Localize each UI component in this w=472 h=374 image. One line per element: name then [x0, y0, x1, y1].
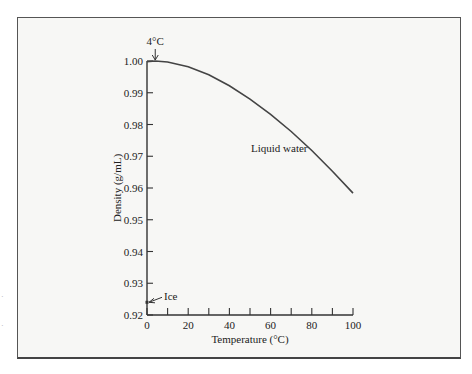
- y-axis-ticks: 0.920.930.940.950.960.970.980.991.00: [124, 55, 153, 321]
- x-axis-ticks: 020406080100: [144, 308, 362, 331]
- y-tick-label: 0.95: [124, 214, 144, 226]
- x-tick-label: 80: [306, 319, 318, 331]
- y-tick-label: 1.00: [124, 55, 144, 67]
- margin-mark: ·: [1, 321, 4, 330]
- y-tick-label: 0.97: [124, 150, 144, 162]
- annotation-4c: 4°C: [147, 35, 164, 47]
- margin-mark: ·: [1, 292, 4, 301]
- y-tick-label: 0.98: [124, 119, 144, 131]
- annotations: 4°CIceLiquid water: [146, 35, 308, 304]
- annotation-liquid-water: Liquid water: [251, 142, 308, 154]
- y-tick-label: 0.96: [124, 182, 144, 194]
- density-chart: 0.920.930.940.950.960.970.980.991.00 020…: [0, 0, 472, 374]
- y-tick-label: 0.94: [124, 246, 144, 258]
- x-tick-label: 40: [224, 319, 236, 331]
- liquid-water-curve: [147, 61, 353, 193]
- annotation-ice: Ice: [164, 290, 178, 302]
- x-tick-label: 20: [183, 319, 195, 331]
- y-tick-label: 0.93: [124, 277, 144, 289]
- x-tick-label: 60: [265, 319, 277, 331]
- x-tick-label: 100: [345, 319, 362, 331]
- y-tick-label: 0.92: [124, 309, 143, 321]
- x-tick-label: 0: [144, 319, 150, 331]
- y-tick-label: 0.99: [124, 87, 144, 99]
- x-axis-label: Temperature (°C): [211, 333, 289, 346]
- y-axis-label: Density (g/mL): [111, 154, 124, 222]
